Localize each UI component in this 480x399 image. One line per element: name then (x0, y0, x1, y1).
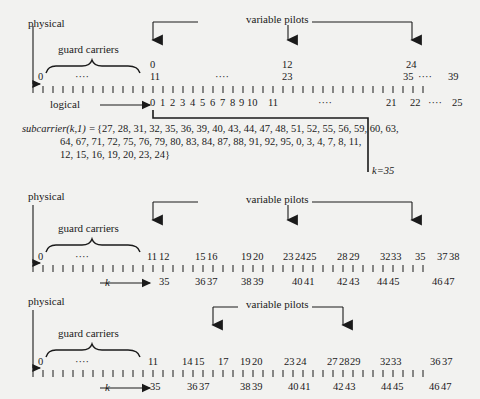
panel3-k-42: 42 (333, 382, 344, 393)
panel2-phys-32: 32 (380, 252, 391, 263)
panel3-phys-23: 23 (284, 357, 295, 368)
panel2-k-38: 38 (241, 277, 252, 288)
panel1-logical-10: 10 (247, 98, 258, 109)
panel3-phys-dots: ···· (75, 357, 89, 368)
panel2-k-46: 46 (432, 277, 443, 288)
panel2-k-47: 47 (444, 277, 455, 288)
panel3-phys-32: 32 (380, 357, 391, 368)
figure-root: physical guard carriers variable pilots … (0, 0, 480, 399)
panel1-logical-3: 3 (180, 98, 185, 109)
panel1-guard-carriers-label: guard carriers (58, 44, 119, 55)
panel2-k-label: k (105, 277, 110, 288)
panel2-k-45: 45 (389, 277, 400, 288)
panel3-phys-29: 29 (350, 357, 361, 368)
panel2-phys-24: 24 (295, 252, 306, 263)
panel1-logical-0: 0 (150, 98, 155, 109)
panel3-physical-label: physical (28, 296, 65, 307)
tick-axis-panel1 (33, 86, 423, 93)
panel1-logical-4: 4 (190, 98, 195, 109)
panel2-phys-19: 19 (241, 252, 252, 263)
panel3-phys-17: 17 (218, 357, 229, 368)
panel2-k-36: 36 (195, 277, 206, 288)
formula-line3: 12, 15, 16, 19, 20, 23, 24} (60, 150, 170, 161)
panel2-phys-33: 33 (391, 252, 402, 263)
panel1-logical-7: 7 (220, 98, 225, 109)
panel2-phys-38: 38 (449, 252, 460, 263)
panel1-logical-dots: ···· (318, 98, 332, 109)
panel1-lower-35: 35 (403, 72, 414, 83)
panel3-phys-15: 15 (194, 357, 205, 368)
panel2-physical-label: physical (28, 191, 65, 202)
panel2-variable-pilots-label: variable pilots (243, 194, 312, 205)
panel1-logical-5: 5 (200, 98, 205, 109)
panel2-phys-23: 23 (283, 252, 294, 263)
panel1-logical-25: 25 (452, 98, 463, 109)
panel1-lower-dots2: ···· (215, 72, 229, 83)
formula-k-annotation: k=35 (372, 166, 394, 177)
tick-axis-panel3 (33, 370, 423, 377)
panel3-variable-pilots-label: variable pilots (243, 299, 312, 310)
panel2-phys-12: 12 (159, 252, 170, 263)
panel1-physical-label: physical (28, 18, 65, 29)
panel3-phys-28: 28 (339, 357, 350, 368)
panel1-lower-11: 11 (150, 72, 160, 83)
panel2-k-41: 41 (304, 277, 315, 288)
panel1-logical-1: 1 (160, 98, 165, 109)
panel1-variable-pilots-label: variable pilots (243, 14, 312, 25)
panel2-k-43: 43 (349, 277, 360, 288)
panel1-logical-dots2: ···· (428, 98, 442, 109)
panel1-lower-dots3: ···· (418, 72, 432, 83)
panel3-k-46: 46 (429, 382, 440, 393)
panel3-phys-33: 33 (391, 357, 402, 368)
panel3-k-38: 38 (240, 382, 251, 393)
panel3-phys-19: 19 (240, 357, 251, 368)
panel3-k-35: 35 (150, 382, 161, 393)
panel1-upper-24: 24 (406, 60, 417, 71)
panel2-k-35: 35 (159, 277, 170, 288)
panel3-k-43: 43 (345, 382, 356, 393)
panel1-logical-22: 22 (410, 98, 421, 109)
panel2-phys-16: 16 (207, 252, 218, 263)
panel3-k-39: 39 (252, 382, 263, 393)
panel3-k-40: 40 (288, 382, 299, 393)
panel2-phys-28: 28 (337, 252, 348, 263)
panel1-logical-6: 6 (210, 98, 215, 109)
panel3-phys-37: 37 (442, 357, 453, 368)
panel2-k-37: 37 (207, 277, 218, 288)
panel1-logical-11: 11 (268, 98, 278, 109)
panel3-k-44: 44 (381, 382, 392, 393)
panel3-k-36: 36 (187, 382, 198, 393)
panel3-phys-24: 24 (296, 357, 307, 368)
panel3-k-label: k (105, 382, 110, 393)
panel1-upper-0: 0 (150, 60, 155, 71)
formula-line1: {27, 28, 31, 32, 35, 36, 39, 40, 43, 44,… (97, 124, 399, 135)
panel2-phys-29: 29 (349, 252, 360, 263)
panel1-logical-label: logical (50, 99, 80, 110)
panel3-phys-27: 27 (327, 357, 338, 368)
panel3-k-47: 47 (441, 382, 452, 393)
panel1-logical-9: 9 (239, 98, 244, 109)
panel3-phys-11: 11 (148, 357, 158, 368)
panel1-lower-dots1: ···· (75, 72, 89, 83)
panel2-phys-dots: ···· (75, 252, 89, 263)
panel2-phys-0: 0 (38, 252, 43, 263)
panel2-phys-15: 15 (195, 252, 206, 263)
panel3-phys-14: 14 (182, 357, 193, 368)
panel1-lower-0: 0 (38, 72, 43, 83)
panel3-phys-20: 20 (252, 357, 263, 368)
panel1-logical-21: 21 (386, 98, 397, 109)
panel3-k-45: 45 (393, 382, 404, 393)
panel3-k-41: 41 (300, 382, 311, 393)
panel1-logical-8: 8 (230, 98, 235, 109)
tick-axis-panel2 (33, 265, 423, 272)
panel2-k-44: 44 (377, 277, 388, 288)
panel1-upper-12: 12 (282, 60, 293, 71)
formula-name: subcarrier(k,1) = (22, 124, 96, 135)
panel3-k-37: 37 (199, 382, 210, 393)
panel1-logical-2: 2 (170, 98, 175, 109)
panel2-guard-carriers-label: guard carriers (58, 223, 119, 234)
panel3-phys-36: 36 (430, 357, 441, 368)
panel1-lower-39: 39 (448, 72, 459, 83)
panel3-phys-0: 0 (38, 357, 43, 368)
panel2-k-39: 39 (253, 277, 264, 288)
